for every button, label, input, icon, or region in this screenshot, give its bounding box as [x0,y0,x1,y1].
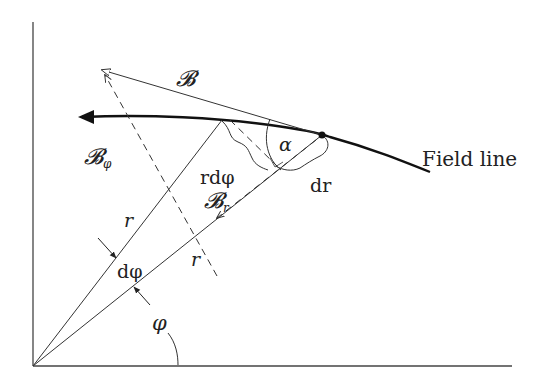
label-dphi: dφ [117,262,142,281]
label-alpha: α [279,135,292,154]
rdphi-dashed [230,120,277,166]
label-b-phi-sub: φ [103,157,111,171]
label-phi: φ [152,313,167,334]
radial-line-upper [33,120,222,366]
label-field-line: Field line [422,149,517,169]
b-vector [102,70,322,135]
dphi-arrow-lower [134,287,150,305]
radial-line-lower [33,135,322,366]
label-r-lower: r [191,250,200,269]
label-b-r-main: 𝓑 [204,188,223,213]
dphi-arrow-upper [98,238,116,258]
field-point [319,132,326,139]
label-b-r: 𝓑r [204,190,229,212]
label-b: 𝓑 [176,68,195,90]
label-dr: dr [310,176,331,195]
phi-arc [168,333,178,365]
field-line-diagram [0,0,541,387]
label-b-phi-main: 𝓑 [84,144,103,169]
label-b-phi: 𝓑φ [84,146,111,168]
field-line-arrowhead [78,110,94,124]
label-b-r-sub: r [223,201,229,215]
label-r-dphi: rdφ [200,168,235,187]
rdphi-brace [222,121,268,170]
label-r-upper: r [124,211,133,230]
